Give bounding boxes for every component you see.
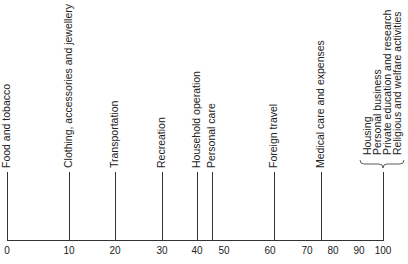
label-transportation: Transportation bbox=[109, 101, 120, 168]
tick-80: 80 bbox=[327, 245, 338, 256]
marker-line-clothing bbox=[69, 172, 70, 240]
marker-line-recreation bbox=[162, 172, 163, 240]
marker-line-household bbox=[197, 172, 198, 240]
label-religious: Religious and welfare activities bbox=[392, 11, 403, 155]
tick-100: 100 bbox=[375, 245, 392, 256]
tick-10: 10 bbox=[63, 245, 74, 256]
label-household: Household operation bbox=[191, 71, 202, 168]
label-foreign-travel: Foreign travel bbox=[268, 104, 279, 168]
tick-70: 70 bbox=[301, 245, 312, 256]
tick-20: 20 bbox=[109, 245, 120, 256]
tick-60: 60 bbox=[264, 245, 275, 256]
label-medical: Medical care and expenses bbox=[315, 40, 326, 168]
marker-line-food bbox=[7, 172, 8, 240]
marker-line-medical bbox=[321, 172, 322, 240]
marker-line-foreign-travel bbox=[274, 172, 275, 240]
brace-icon bbox=[359, 159, 405, 169]
label-clothing: Clothing, accessories and jewellery bbox=[63, 4, 74, 168]
label-recreation: Recreation bbox=[156, 117, 167, 168]
tick-30: 30 bbox=[156, 245, 167, 256]
label-food: Food and tobacco bbox=[1, 84, 12, 168]
tick-50: 50 bbox=[218, 245, 229, 256]
marker-line-transportation bbox=[115, 172, 116, 240]
x-axis-line bbox=[7, 240, 384, 241]
tick-0: 0 bbox=[4, 245, 10, 256]
tick-40: 40 bbox=[191, 245, 202, 256]
marker-line-personal-care bbox=[212, 172, 213, 240]
tick-90: 90 bbox=[353, 245, 364, 256]
marker-line-housing-group bbox=[383, 172, 384, 240]
label-personal-care: Personal care bbox=[206, 103, 217, 168]
